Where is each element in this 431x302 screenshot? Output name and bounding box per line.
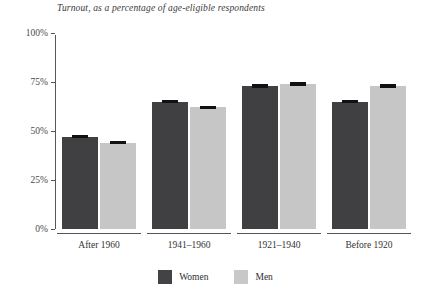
- legend-item-men[interactable]: Men: [234, 270, 272, 284]
- error-bar-cap: [110, 141, 126, 144]
- bar-group: [62, 33, 145, 229]
- y-tick-label: 100%: [26, 28, 48, 38]
- legend-label: Men: [255, 272, 272, 282]
- x-axis-label: 1941–1960: [168, 240, 211, 250]
- plot-area: 0%25%50%75%100%: [55, 30, 415, 232]
- bar-men[interactable]: [190, 107, 226, 229]
- y-tick-label: 75%: [31, 77, 48, 87]
- chart-legend: WomenMen: [0, 270, 431, 284]
- error-bar-cap: [162, 100, 178, 103]
- y-tick-label: 50%: [31, 126, 48, 136]
- x-axis-label: 1921–1940: [258, 240, 301, 250]
- bar-men[interactable]: [370, 86, 406, 229]
- y-tick-mark: [51, 180, 55, 181]
- y-tick-mark: [51, 229, 55, 230]
- baseline-segment: [327, 233, 411, 234]
- baseline-segment: [237, 233, 321, 234]
- legend-swatch: [158, 270, 172, 284]
- bar-group: [332, 33, 415, 229]
- x-axis-label: Before 1920: [345, 240, 392, 250]
- bar-men[interactable]: [100, 143, 136, 229]
- legend-swatch: [234, 270, 248, 284]
- bar-women[interactable]: [152, 102, 188, 229]
- chart-title: Turnout, as a percentage of age-eligible…: [57, 3, 265, 13]
- bar-women[interactable]: [332, 102, 368, 229]
- error-bar-cap: [380, 84, 396, 87]
- y-axis-line: [55, 35, 56, 229]
- legend-item-women[interactable]: Women: [158, 270, 208, 284]
- error-bar-cap: [72, 135, 88, 138]
- error-bar-cap: [290, 82, 306, 85]
- legend-label: Women: [179, 272, 208, 282]
- x-axis-label: After 1960: [78, 240, 119, 250]
- bar-group: [242, 33, 325, 229]
- y-tick-label: 0%: [35, 224, 48, 234]
- chart-page: Turnout, as a percentage of age-eligible…: [0, 0, 431, 302]
- baseline-segment: [57, 233, 141, 234]
- baseline-segment: [147, 233, 231, 234]
- bar-men[interactable]: [280, 84, 316, 229]
- y-tick-mark: [51, 33, 55, 34]
- error-bar-cap: [342, 100, 358, 103]
- bar-women[interactable]: [242, 86, 278, 229]
- bar-women[interactable]: [62, 137, 98, 229]
- bar-group: [152, 33, 235, 229]
- error-bar-cap: [200, 106, 216, 109]
- y-tick-label: 25%: [31, 175, 48, 185]
- error-bar-cap: [252, 84, 268, 87]
- y-tick-mark: [51, 82, 55, 83]
- y-tick-mark: [51, 131, 55, 132]
